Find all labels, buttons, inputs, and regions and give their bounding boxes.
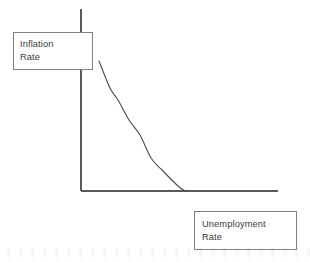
y-axis-label-box: Inflation Rate (13, 32, 93, 70)
diagram-canvas: Inflation Rate Unemployment Rate (0, 0, 310, 262)
x-axis-label-line-1: Unemployment (202, 218, 296, 231)
x-axis-label-line-2: Rate (202, 231, 296, 244)
y-axis-label-line-2: Rate (20, 51, 92, 64)
phillips-curve-path (99, 61, 185, 191)
y-axis-label-line-1: Inflation (20, 38, 92, 51)
x-axis-label-box: Unemployment Rate (194, 211, 297, 250)
